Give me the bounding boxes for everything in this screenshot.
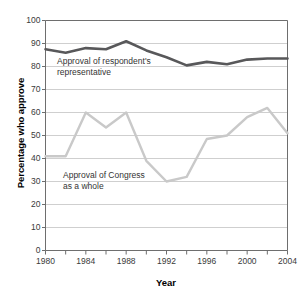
- x-tick-label-1996: 1996: [190, 257, 224, 266]
- x-tick-label-2004: 2004: [271, 257, 303, 266]
- annotation-representative-line2: representative: [57, 67, 151, 78]
- x-tick-label-1984: 1984: [69, 257, 103, 266]
- annotation-representative-line1: Approval of respondent's: [57, 56, 151, 67]
- annotation-representative: Approval of respondent's representative: [57, 56, 151, 78]
- annotation-congress-line1: Approval of Congress: [63, 170, 145, 181]
- x-tick-label-1988: 1988: [109, 257, 143, 266]
- x-tick-label-1980: 1980: [29, 257, 63, 266]
- y-axis-title: Percentage who approve: [14, 18, 28, 248]
- x-axis-title: Year: [45, 277, 287, 288]
- chart-figure: 0102030405060708090100 19801984198819921…: [0, 0, 302, 302]
- annotation-congress-line2: as a whole: [63, 181, 145, 192]
- x-tick-label-2000: 2000: [230, 257, 264, 266]
- x-tick-label-1992: 1992: [150, 257, 184, 266]
- annotation-congress: Approval of Congress as a whole: [63, 170, 145, 192]
